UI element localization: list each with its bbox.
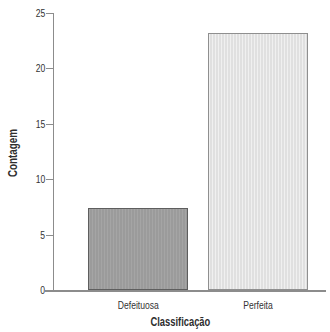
x-axis-title-text: Classificação — [150, 315, 210, 329]
y-tick-mark — [46, 235, 53, 236]
x-axis-line — [45, 290, 326, 292]
category-label-perfeita: Perfeita — [208, 299, 308, 312]
y-tick-mark — [46, 13, 53, 14]
y-tick-label: 20 — [15, 62, 45, 74]
y-tick-mark — [46, 290, 53, 291]
category-label-defeituosa: Defeituosa — [88, 299, 188, 312]
y-tick-mark — [46, 68, 53, 69]
y-axis-line — [53, 13, 54, 291]
bar-defeituosa — [88, 208, 188, 290]
bar-chart-figure: Contagem 25 20 15 10 5 0 Defeituosa Perf… — [0, 0, 330, 332]
bar-perfeita — [208, 33, 308, 290]
x-axis-title: Classificação — [40, 315, 320, 329]
y-tick-label: 15 — [15, 118, 45, 130]
y-tick-label: 10 — [15, 173, 45, 185]
y-tick-mark — [46, 124, 53, 125]
y-axis-title-text: Contagem — [6, 129, 20, 177]
y-tick-label: 25 — [15, 7, 45, 19]
y-tick-label: 0 — [15, 284, 45, 296]
y-tick-label: 5 — [15, 229, 45, 241]
y-tick-mark — [46, 179, 53, 180]
